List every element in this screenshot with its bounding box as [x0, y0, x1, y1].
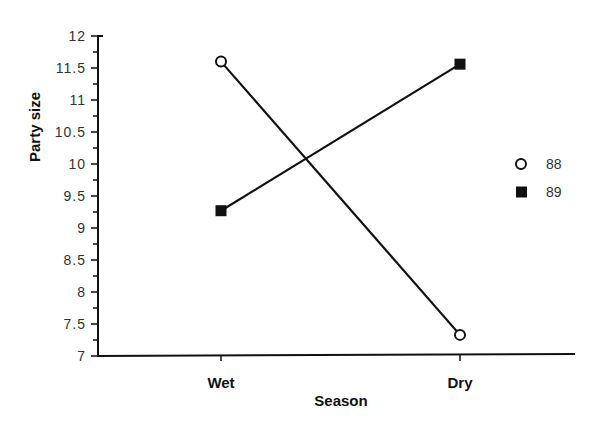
series-line-88 [221, 62, 460, 335]
y-tick-label: 8 [77, 284, 86, 300]
y-tick-label: 10.5 [55, 124, 86, 140]
open-circle-marker-icon [216, 57, 226, 67]
legend-label: 89 [546, 184, 562, 200]
y-tick-label: 11.5 [56, 60, 86, 76]
legend: 8889 [516, 156, 562, 200]
x-axis: WetDry [97, 354, 575, 391]
y-tick-label: 12 [68, 28, 86, 44]
open-circle-marker-icon [455, 330, 465, 340]
y-tick-label: 8.5 [64, 252, 86, 268]
x-axis-title: Season [314, 392, 367, 409]
y-axis: 77.588.599.51010.51111.512 [55, 28, 103, 364]
y-axis-title: Party size [26, 92, 43, 162]
y-tick-label: 9.5 [64, 188, 86, 204]
y-tick-label: 7.5 [64, 316, 86, 332]
x-axis-line [97, 354, 575, 356]
series-layer [216, 57, 466, 340]
y-tick-label: 11 [69, 92, 86, 108]
filled-square-marker-icon [455, 59, 466, 70]
legend-label: 88 [546, 156, 562, 172]
y-tick-label: 7 [77, 348, 86, 364]
series-line-89 [221, 64, 460, 211]
legend-filled-square-icon [516, 187, 527, 198]
legend-open-circle-icon [516, 159, 526, 169]
x-category-label: Dry [447, 374, 473, 391]
x-category-label: Wet [207, 374, 234, 391]
filled-square-marker-icon [216, 205, 227, 216]
line-chart: 77.588.599.51010.51111.512 WetDry 8889 P… [0, 0, 595, 424]
y-tick-label: 10 [68, 156, 86, 172]
y-tick-label: 9 [77, 220, 86, 236]
